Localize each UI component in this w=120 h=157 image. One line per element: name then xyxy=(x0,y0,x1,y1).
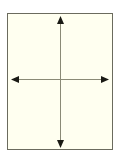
diagram-canvas xyxy=(0,0,120,157)
axes-overlay xyxy=(0,0,120,157)
arrowhead-down-icon xyxy=(57,140,64,148)
arrowhead-right-icon xyxy=(101,76,109,83)
arrowhead-up-icon xyxy=(57,16,64,24)
arrowhead-left-icon xyxy=(11,76,19,83)
